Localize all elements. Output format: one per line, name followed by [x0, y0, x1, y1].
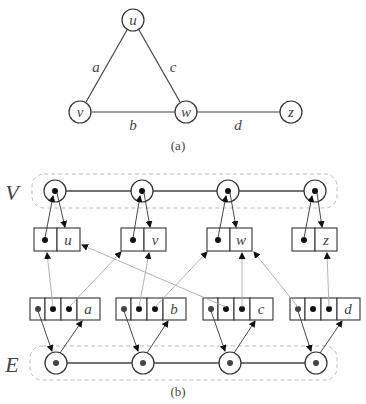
edge-record-b-label: b [170, 301, 178, 317]
vertex-record-u: u [34, 228, 80, 251]
vertex-record-v: v [121, 228, 166, 251]
vertex-w-label: w [181, 104, 191, 120]
vertex-record-u-label: u [64, 232, 72, 248]
vertex-v-label: v [77, 104, 84, 120]
vertex-u-label: u [129, 12, 137, 28]
vertex-u: u [122, 9, 144, 31]
vertex-record-z-label: z [322, 232, 329, 248]
vertex-z: z [280, 101, 302, 123]
graph-a: u v w z a b c d (a) [69, 9, 302, 153]
edge-a-label: a [92, 59, 100, 75]
vertex-sequence-label: V [5, 180, 21, 205]
edge-record-c-label: c [258, 301, 265, 317]
vertex-record-w: w [207, 228, 252, 251]
structure-b: V u v w [4, 174, 360, 399]
vertex-v: v [69, 101, 91, 123]
edge-record-a-label: a [84, 301, 92, 317]
vertex-record-z: z [292, 228, 337, 251]
vertex-w: w [175, 101, 197, 123]
caption-b: (b) [170, 384, 185, 399]
vertex-record-v-label: v [152, 232, 159, 248]
edge-c-label: c [170, 59, 177, 75]
caption-a: (a) [171, 138, 185, 153]
vertex-pointers [45, 193, 322, 238]
edge-list-diagram: u v w z a b c d (a) V [0, 0, 366, 404]
edge-sequence-label: E [4, 352, 19, 377]
edge-record-a: a [30, 298, 100, 320]
vertex-record-w-label: w [236, 232, 246, 248]
edge-b-label: b [129, 117, 137, 133]
edge-d-label: d [234, 117, 242, 133]
vertex-z-label: z [287, 104, 294, 120]
edge-record-d: d [290, 298, 360, 320]
edge-record-b: b [116, 298, 186, 320]
edge-record-d-label: d [344, 301, 352, 317]
